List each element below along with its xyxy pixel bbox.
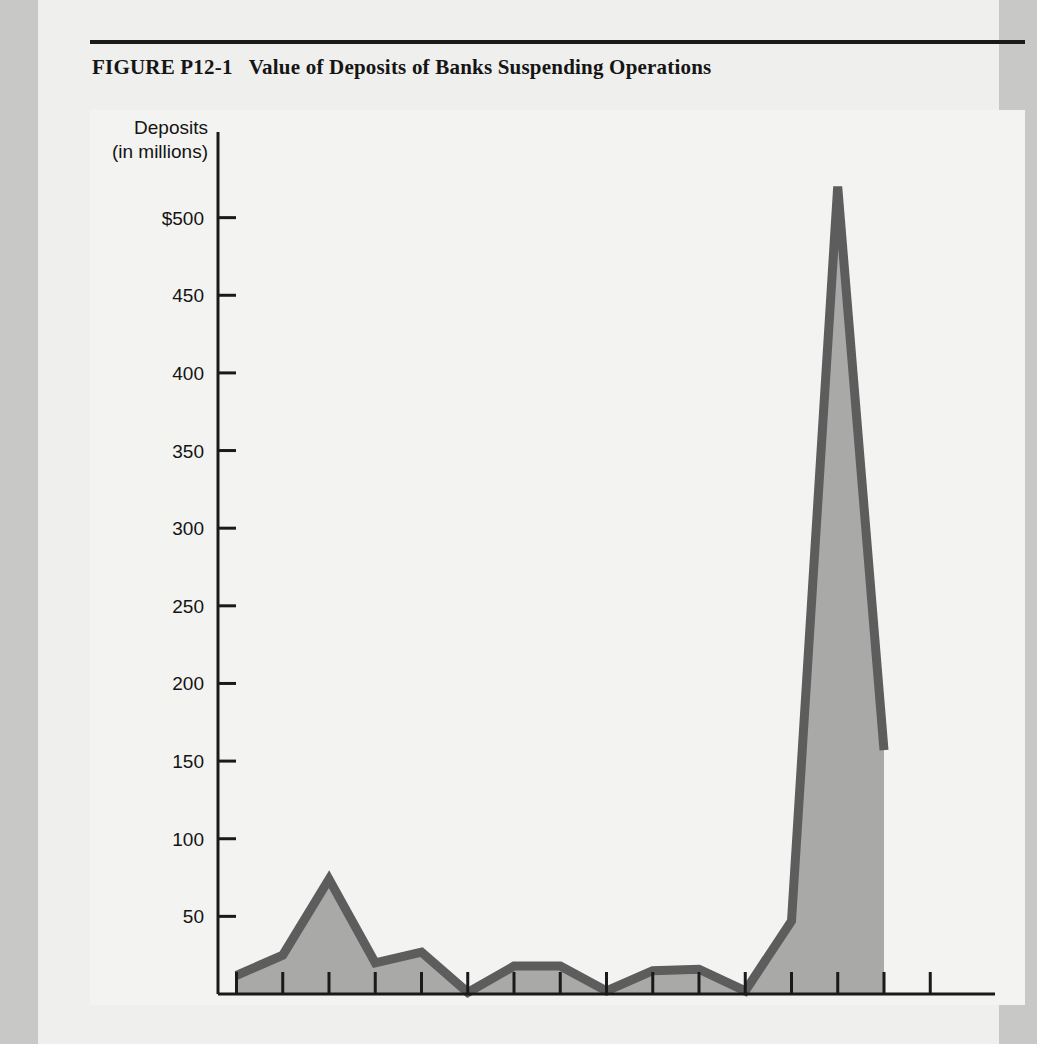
area-fill-path	[237, 187, 885, 994]
y-axis-tick-label: 450	[172, 285, 204, 306]
y-axis-tick-label: $500	[162, 208, 204, 229]
area-line-path	[237, 187, 885, 993]
chart-plot-panel: 50100150200250300350400450$500 197019721…	[90, 110, 1025, 1005]
y-axis-tick-label: 400	[172, 363, 204, 384]
page-background: FIGURE P12-1Value of Deposits of Banks S…	[0, 0, 1037, 1044]
content-sheet: FIGURE P12-1Value of Deposits of Banks S…	[38, 0, 999, 1044]
figure-title-text: Value of Deposits of Banks Suspending Op…	[249, 55, 712, 79]
y-axis-tick-label: 250	[172, 596, 204, 617]
figure-number: FIGURE P12-1	[92, 55, 233, 79]
y-axis-label-line1: Deposits	[134, 117, 208, 138]
y-axis-tick-label: 100	[172, 829, 204, 850]
title-divider-rule	[90, 40, 1025, 44]
y-axis-tick-label: 200	[172, 673, 204, 694]
y-axis-tick-label: 150	[172, 751, 204, 772]
y-axis-tick-label: 50	[183, 906, 204, 927]
y-axis-ticks: 50100150200250300350400450$500	[162, 208, 236, 928]
figure-title: FIGURE P12-1Value of Deposits of Banks S…	[92, 54, 792, 80]
series-layer	[237, 187, 885, 994]
deposits-area-chart: 50100150200250300350400450$500 197019721…	[90, 110, 1025, 1005]
y-axis-label-line2: (in millions)	[112, 141, 208, 162]
y-axis-tick-label: 300	[172, 518, 204, 539]
y-axis-tick-label: 350	[172, 441, 204, 462]
